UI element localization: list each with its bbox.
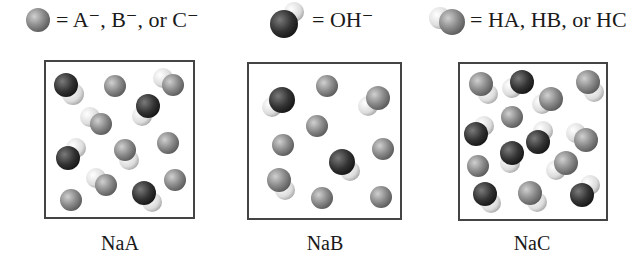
legend-hydroxide-text: = OH⁻ — [312, 7, 373, 33]
legend-anion: = A⁻, B⁻, or C⁻ — [56, 0, 199, 40]
box-nab — [247, 62, 402, 220]
anion-sphere-icon — [26, 8, 50, 32]
box-label-nac: NaC — [452, 232, 612, 255]
box-label-nab: NaB — [245, 232, 405, 255]
hydroxide-molecule-icon — [270, 2, 304, 38]
box-label-naa: NaA — [40, 232, 200, 255]
legend-acid-text: = HA, HB, or HC — [470, 7, 627, 33]
weak-acid-molecule-icon — [429, 7, 465, 35]
legend-acid: = HA, HB, or HC — [470, 0, 627, 40]
box-nac — [458, 62, 608, 221]
legend-anion-text: = A⁻, B⁻, or C⁻ — [56, 7, 199, 33]
legend-hydroxide: = OH⁻ — [312, 0, 373, 40]
box-naa — [44, 60, 195, 219]
